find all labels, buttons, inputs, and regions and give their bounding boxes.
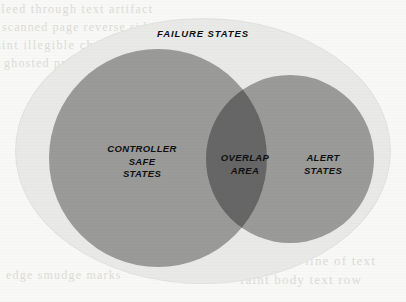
label-controller-safe-states: CONTROLLER SAFE STATES bbox=[95, 143, 189, 181]
label-overlap-area: OVERLAP AREA bbox=[214, 152, 276, 177]
label-alert-states: ALERT STATES bbox=[292, 152, 354, 177]
venn-diagram-figure: bleed through text artifact scanned page… bbox=[0, 0, 406, 302]
venn-shape-layer bbox=[0, 0, 406, 302]
label-failure-states: FAILURE STATES bbox=[0, 28, 406, 41]
